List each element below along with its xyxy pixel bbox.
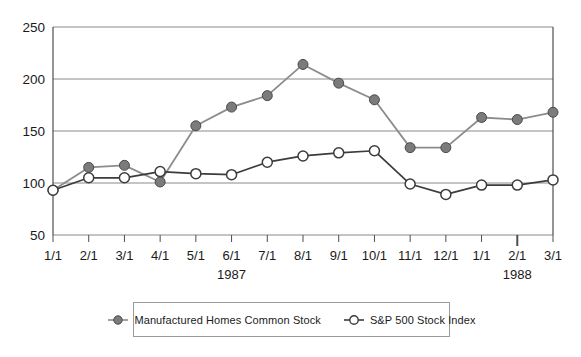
x-tick-label-3: 4/1 [151,248,169,263]
legend-label-sp500: S&P 500 Stock Index [370,314,476,326]
x-tick-label-6: 7/1 [258,248,276,263]
data-point [84,162,94,172]
y-tick-label-250: 250 [22,20,45,35]
x-tick-label-9: 10/1 [362,248,387,263]
data-point [191,121,201,131]
data-point [512,115,522,125]
data-point [191,169,201,179]
x-tick-label-8: 9/1 [330,248,348,263]
legend-entry-manufactured-homes: Manufactured Homes Common Stock [107,314,321,326]
data-point [119,173,129,183]
data-point [119,160,129,170]
x-tick-label-0: 1/1 [44,248,62,263]
legend-entry-sp500: S&P 500 Stock Index [343,314,476,326]
data-point [369,95,379,105]
x-axis-tick-labels: 1/12/13/14/15/16/17/18/19/110/111/112/11… [44,248,562,263]
x-tick-label-5: 6/1 [223,248,241,263]
series-2 [48,146,558,200]
year-label-1988: 1988 [503,267,532,282]
x-tick-label-13: 2/1 [508,248,526,263]
data-point [262,157,272,167]
y-tick-label-150: 150 [22,124,45,139]
data-point [369,146,379,156]
filled-circle-marker-icon [107,314,129,326]
x-tick-label-12: 1/1 [473,248,491,263]
chart-page: 50100150200250 1/12/13/14/15/16/17/18/19… [0,0,581,357]
y-axis-tick-labels: 50100150200250 [22,20,45,243]
open-circle-marker-icon [343,314,365,326]
data-point [405,143,415,153]
data-point [227,102,237,112]
series-line-1 [53,64,553,190]
data-point [548,175,558,185]
data-point [405,179,415,189]
y-tick-label-200: 200 [22,72,45,87]
data-point [298,59,308,69]
data-point [48,185,58,195]
data-point [477,180,487,190]
data-point [441,143,451,153]
y-tick-label-50: 50 [30,228,45,243]
chart-legend: Manufactured Homes Common Stock S&P 500 … [133,302,450,337]
x-tick-label-4: 5/1 [187,248,205,263]
y-tick-label-100: 100 [22,176,45,191]
x-tick-label-10: 11/1 [398,248,422,263]
data-point [227,170,237,180]
data-point [298,151,308,161]
data-point [84,173,94,183]
data-point [262,91,272,101]
x-tick-label-7: 8/1 [294,248,312,263]
year-label-1987: 1987 [217,267,246,282]
data-point [334,148,344,158]
data-point [334,78,344,88]
data-point [477,112,487,122]
gridlines-group [53,27,553,235]
x-axis-year-labels: 19871988 [217,267,532,282]
x-tick-label-1: 2/1 [80,248,98,263]
data-point [441,189,451,199]
legend-label-manufactured-homes: Manufactured Homes Common Stock [134,314,321,326]
x-tick-marks-group [53,235,553,246]
x-tick-label-14: 3/1 [544,248,562,263]
x-tick-label-2: 3/1 [115,248,133,263]
data-point [548,107,558,117]
data-point [512,180,522,190]
x-tick-label-11: 12/1 [433,248,458,263]
data-point [155,167,165,177]
data-point [155,177,165,187]
data-series-group [48,59,558,199]
